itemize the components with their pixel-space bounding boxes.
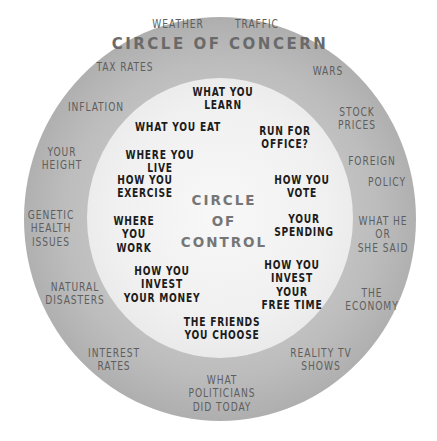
concern-item-tax-rates: TAX RATES xyxy=(90,60,160,73)
concern-item-reality-tv-shows: REALITY TV SHOWS xyxy=(286,346,356,373)
concern-item-traffic: TRAFFIC xyxy=(230,17,285,30)
control-item-where-you-live: WHERE YOU LIVE xyxy=(113,148,207,175)
concern-item-inflation: INFLATION xyxy=(65,100,127,113)
control-item-how-you-exercise: HOW YOU EXERCISE xyxy=(110,173,180,200)
control-item-your-spending: YOUR SPENDING xyxy=(273,212,335,239)
circle-of-control-title: CIRCLE OF CONTROL xyxy=(176,190,272,253)
control-item-how-you-vote: HOW YOU VOTE xyxy=(271,173,333,200)
circle-of-control-diagram: CIRCLE OF CONCERN WEATHER TRAFFIC TAX RA… xyxy=(0,0,437,441)
concern-item-your-height: YOUR HEIGHT xyxy=(39,145,86,172)
concern-item-wars: WARS xyxy=(306,64,350,77)
concern-item-genetic-health-issues: GENETIC HEALTH ISSUES xyxy=(27,208,75,248)
circle-of-concern-title: CIRCLE OF CONCERN xyxy=(98,37,342,52)
control-item-how-you-invest-your-free-time: HOW YOU INVEST YOUR FREE TIME xyxy=(255,258,330,311)
concern-item-interest-rates: INTEREST RATES xyxy=(83,346,145,373)
concern-item-what-he-or-she-said: WHAT HE OR SHE SAID xyxy=(354,214,412,254)
control-item-what-you-eat: WHAT YOU EAT xyxy=(134,120,221,133)
concern-item-natural-disasters: NATURAL DISASTERS xyxy=(44,280,106,307)
concern-item-foreign: FOREIGN xyxy=(345,154,400,167)
concern-item-policy: POLICY xyxy=(362,175,412,188)
control-item-what-you-learn: WHAT YOU LEARN xyxy=(188,85,258,112)
control-item-where-you-work: WHERE YOU WORK xyxy=(100,214,169,254)
concern-item-the-economy: THE ECONOMY xyxy=(339,286,405,313)
control-item-the-friends-you-choose: THE FRIENDS YOU CHOOSE xyxy=(183,315,261,342)
control-item-how-you-invest-your-money: HOW YOU INVEST YOUR MONEY xyxy=(115,264,209,304)
concern-item-weather: WEATHER xyxy=(147,17,209,30)
control-item-run-for-office: RUN FOR OFFICE? xyxy=(254,124,316,151)
concern-item-what-politicians-did-today: WHAT POLITICIANS DID TODAY xyxy=(183,373,261,413)
concern-item-stock-prices: STOCK PRICES xyxy=(330,105,385,132)
